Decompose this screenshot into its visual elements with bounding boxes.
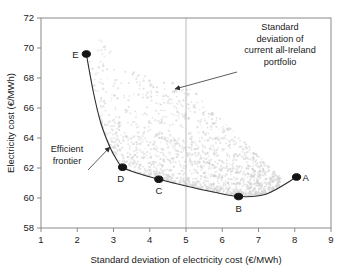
x-axis-title: Standard deviation of electricity cost (… bbox=[90, 254, 281, 265]
portfolio-label-A: A bbox=[302, 172, 309, 183]
y-tick-label: 58 bbox=[23, 222, 34, 233]
annotation-line: Standard bbox=[261, 22, 298, 32]
x-tick-label: 5 bbox=[183, 234, 188, 245]
y-tick-label: 60 bbox=[23, 192, 34, 203]
std-dev-annotation: Standarddeviation ofcurrent all-Irelandp… bbox=[175, 22, 316, 89]
portfolio-label-E: E bbox=[72, 49, 78, 60]
scatter-plot: 5860626466687072123456789 ABCDE Standard… bbox=[0, 0, 346, 279]
y-tick-label: 66 bbox=[23, 102, 34, 113]
annotation-line: frontier bbox=[53, 156, 82, 166]
annotation-line: Efficient bbox=[51, 144, 84, 154]
annotation-arrow bbox=[175, 72, 237, 89]
efficient-frontier-annotation: Efficientfrontier bbox=[51, 144, 110, 170]
x-tick-label: 9 bbox=[328, 234, 333, 245]
y-tick-label: 70 bbox=[23, 42, 34, 53]
portfolio-marker-E bbox=[82, 51, 90, 58]
x-tick-label: 6 bbox=[220, 234, 225, 245]
x-tick-label: 7 bbox=[256, 234, 261, 245]
y-tick-label: 68 bbox=[23, 72, 34, 83]
portfolio-label-B: B bbox=[235, 203, 241, 214]
portfolio-marker-D bbox=[118, 164, 126, 171]
y-tick-label: 62 bbox=[23, 162, 34, 173]
y-tick-label: 72 bbox=[23, 12, 34, 23]
portfolio-marker-B bbox=[234, 193, 242, 200]
portfolio-marker-C bbox=[155, 176, 163, 183]
chart-figure: 5860626466687072123456789 ABCDE Standard… bbox=[0, 0, 346, 279]
x-tick-label: 1 bbox=[38, 234, 43, 245]
portfolio-marker-A bbox=[292, 174, 300, 181]
annotation-line: portfolio bbox=[264, 57, 297, 67]
y-axis-title: Electricity cost (€/MWh) bbox=[5, 73, 16, 173]
x-tick-label: 8 bbox=[292, 234, 297, 245]
portfolio-label-C: C bbox=[155, 185, 162, 196]
annotation-line: current all-Ireland bbox=[244, 45, 316, 55]
annotation-line: deviation of bbox=[257, 34, 304, 44]
portfolio-label-D: D bbox=[117, 173, 124, 184]
y-tick-label: 64 bbox=[23, 132, 34, 143]
x-tick-label: 3 bbox=[111, 234, 116, 245]
x-tick-label: 2 bbox=[75, 234, 80, 245]
x-tick-label: 4 bbox=[147, 234, 152, 245]
annotation-arrow bbox=[88, 147, 110, 170]
